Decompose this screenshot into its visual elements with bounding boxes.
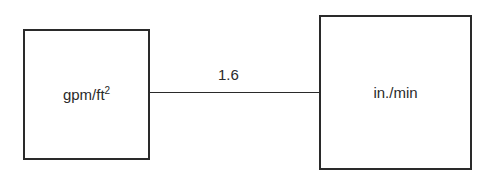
left-box-label: gpm/ft2 (63, 86, 110, 103)
conversion-connector-line (149, 92, 320, 93)
unit-box-gpm-per-sqft: gpm/ft2 (23, 29, 150, 160)
conversion-factor-label: 1.6 (218, 66, 239, 83)
unit-box-in-per-min: in./min (319, 15, 472, 170)
right-box-label: in./min (373, 84, 417, 101)
